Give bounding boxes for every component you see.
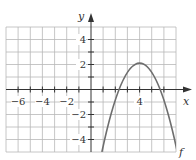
y-tick-label: −2 (71, 109, 86, 120)
y-tick-label: 2 (80, 59, 86, 70)
y-tick-label: 4 (80, 34, 86, 45)
x-tick-label: −6 (11, 96, 26, 107)
x-tick-label: −4 (35, 96, 50, 107)
curve-label: f (178, 146, 185, 159)
y-tick-label: −4 (71, 134, 86, 145)
y-axis-label: y (77, 10, 85, 23)
x-tick-labels: −6 −4 −2 4 (11, 96, 144, 107)
x-axis-arrow-icon (183, 87, 192, 93)
y-axis-arrow-icon (88, 13, 94, 22)
chart: −6 −4 −2 4 4 2 −2 −4 x y f (0, 0, 196, 160)
x-tick-label: −2 (59, 96, 74, 107)
x-axis-label: x (183, 95, 190, 108)
x-tick-label: 4 (136, 96, 142, 107)
